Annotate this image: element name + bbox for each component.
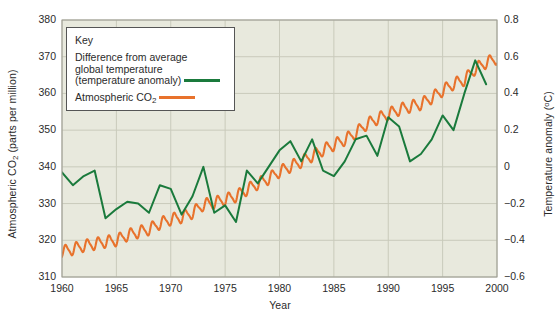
y-axis-left-tick-label: 340 bbox=[16, 160, 56, 172]
y-axis-left-title-post: (parts per million) bbox=[6, 69, 18, 155]
x-axis-tick-label: 1980 bbox=[255, 282, 305, 294]
y-axis-right-tick-label: −0.4 bbox=[504, 233, 544, 245]
legend-title: Key bbox=[75, 34, 227, 46]
y-axis-right-tick-label: 0.4 bbox=[504, 86, 544, 98]
x-axis-tick-label: 1985 bbox=[309, 282, 359, 294]
y-axis-left-tick-label: 330 bbox=[16, 197, 56, 209]
legend-label-co2: Atmospheric CO bbox=[75, 91, 152, 103]
x-axis-title: Year bbox=[0, 299, 560, 311]
legend-entry-temperature: Difference from average global temperatu… bbox=[75, 52, 227, 87]
x-axis-tick-label: 1960 bbox=[37, 282, 87, 294]
y-axis-right-tick-label: 0.2 bbox=[504, 123, 544, 135]
y-axis-left-title-sub: 2 bbox=[11, 156, 20, 161]
x-axis-tick-label: 1965 bbox=[91, 282, 141, 294]
legend-swatch-co2 bbox=[159, 96, 195, 99]
legend-label-temperature-line3: (temperature anomaly) bbox=[75, 74, 181, 86]
y-axis-right-title: Temperature anomaly (oC) bbox=[542, 54, 554, 254]
x-axis-tick-label: 1970 bbox=[146, 282, 196, 294]
x-axis-tick-label: 1990 bbox=[363, 282, 413, 294]
legend-label-temperature-line1: Difference from average bbox=[75, 51, 187, 63]
y-axis-right-tick-label: 0 bbox=[504, 160, 544, 172]
y-axis-left-title-pre: Atmospheric CO bbox=[6, 160, 18, 238]
y-axis-left-tick-label: 350 bbox=[16, 123, 56, 135]
legend-label-temperature-line2: global temperature bbox=[75, 63, 163, 75]
legend-label-co2-sub: 2 bbox=[152, 96, 156, 105]
y-axis-right-title-pre: Temperature anomaly ( bbox=[542, 107, 554, 217]
x-axis-tick-label: 1975 bbox=[200, 282, 250, 294]
y-axis-left-title: Atmospheric CO2 (parts per million) bbox=[6, 54, 18, 254]
y-axis-right-tick-label: −0.2 bbox=[504, 197, 544, 209]
y-axis-left-tick-label: 310 bbox=[16, 270, 56, 282]
x-axis-tick-label: 1995 bbox=[418, 282, 468, 294]
legend-box: Key Difference from average global tempe… bbox=[66, 27, 235, 111]
y-axis-left-tick-label: 380 bbox=[16, 13, 56, 25]
legend-entry-co2: Atmospheric CO2 bbox=[75, 92, 227, 105]
y-axis-right-tick-label: 0.6 bbox=[504, 50, 544, 62]
y-axis-right-title-post: C) bbox=[542, 91, 554, 102]
x-axis-tick-label: 2000 bbox=[472, 282, 522, 294]
legend-swatch-temperature bbox=[184, 79, 220, 82]
co2-temperature-chart: 310320330340350360370380 −0.6−0.4−0.200.… bbox=[0, 0, 560, 321]
y-axis-left-tick-label: 370 bbox=[16, 50, 56, 62]
y-axis-right-tick-label: −0.6 bbox=[504, 270, 544, 282]
y-axis-right-tick-label: 0.8 bbox=[504, 13, 544, 25]
y-axis-left-tick-label: 360 bbox=[16, 86, 56, 98]
degree-sign-icon: o bbox=[542, 102, 551, 106]
y-axis-left-tick-label: 320 bbox=[16, 233, 56, 245]
